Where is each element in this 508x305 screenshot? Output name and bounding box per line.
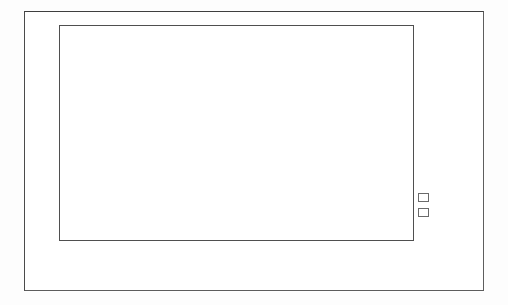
legend-item-males[interactable] [418,208,431,217]
legend-swatch-females [418,193,429,202]
area-series-layer [0,0,508,305]
legend-swatch-males [418,208,429,217]
stacked-area-chart [0,0,508,305]
legend-item-females[interactable] [418,193,431,202]
legend [418,186,431,223]
chart-page [0,0,508,305]
